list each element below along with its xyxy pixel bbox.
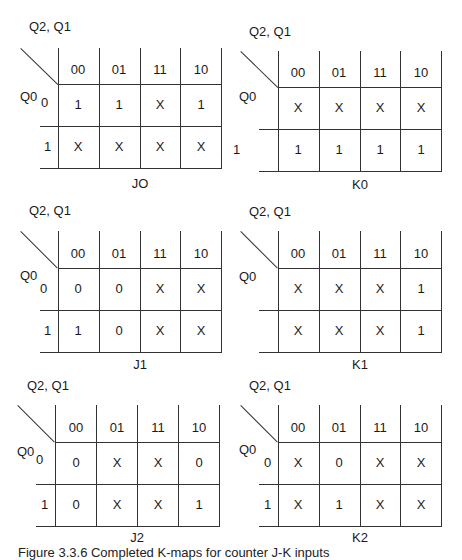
grid-line-vertical [441,231,442,352]
kmap-cell: X [279,281,317,297]
grid-line-vertical [180,48,181,168]
column-header: 11 [361,246,399,262]
row-variable-label: Q0 [239,89,256,104]
kmap-cell: 1 [182,97,220,113]
corner-diagonal [20,231,58,269]
kmap-cell: 1 [59,323,97,339]
kmap-k1: Q2, Q100011110Q0XXX1XXX1K1 [231,180,462,360]
grid-line-horizontal [58,268,222,269]
column-header: 00 [279,420,317,436]
column-header: 00 [279,246,317,262]
grid-line-horizontal [40,168,222,169]
column-header: 10 [402,420,440,436]
kmap-cell: X [279,323,317,339]
kmap-cell: X [361,100,399,116]
row-header: 1 [44,139,51,154]
kmap-cell: 1 [402,323,440,339]
kmap-cell: X [361,281,399,297]
kmap-cell: 0 [57,497,95,513]
grid-line-horizontal [40,310,222,311]
grid-line-vertical [221,231,222,352]
row-header: 1 [41,497,48,512]
column-header: 00 [59,62,97,78]
kmap-cell: 1 [100,97,138,113]
column-variables-label: Q2, Q1 [29,19,71,34]
kmap-j1: Q2, Q100011110Q00100XX10XXJ1 [0,180,231,360]
column-variables-label: Q2, Q1 [29,203,71,218]
kmap-cell: X [320,323,358,339]
kmap-cell: X [182,323,220,339]
kmap-cell: 0 [320,455,358,471]
column-header: 01 [100,246,138,262]
kmap-title: K2 [330,530,390,545]
grid-line-horizontal [58,84,222,85]
kmap-cell: X [361,497,399,513]
grid-line-vertical [400,405,401,526]
grid-line-vertical [55,405,56,526]
kmap-cell: X [141,323,179,339]
kmap-cell: 0 [180,455,218,471]
grid-line-horizontal [36,526,220,527]
kmap-cell: X [59,139,97,155]
kmap-cell: X [141,97,179,113]
column-header: 01 [100,62,138,78]
row-variable-label: Q0 [20,89,37,104]
column-header: 11 [361,420,399,436]
column-header: 10 [402,65,440,81]
grid-line-horizontal [259,171,442,172]
figure-caption: Figure 3.3.6 Completed K-maps for counte… [18,545,329,560]
grid-line-horizontal [55,442,220,443]
row-variable-label: Q0 [239,442,256,457]
column-header: 10 [180,420,218,436]
row-header: 0 [40,281,47,296]
grid-line-horizontal [259,526,442,527]
grid-line-horizontal [278,268,442,269]
kmap-cell: X [100,139,138,155]
kmap-title: J2 [107,530,167,545]
grid-line-horizontal [278,87,442,88]
kmap-cell: 0 [100,281,138,297]
column-header: 11 [139,420,177,436]
kmap-cell: 1 [279,142,317,158]
column-header: 11 [141,246,179,262]
grid-line-horizontal [278,442,442,443]
corner-diagonal [240,51,278,88]
kmap-cell: 0 [100,323,138,339]
corner-diagonal [240,405,278,443]
kmap-cell: 1 [320,497,358,513]
kmap-k2: Q2, Q100011110Q001X0XXX1XXK2 [231,360,462,540]
row-header: 1 [264,497,271,512]
row-header: 0 [264,455,271,470]
kmap-cell: X [139,455,177,471]
column-variables-label: Q2, Q1 [27,378,69,393]
column-header: 00 [279,65,317,81]
kmap-cell: 1 [320,142,358,158]
column-header: 10 [402,246,440,262]
grid-line-horizontal [36,484,220,485]
grid-line-vertical [180,231,181,352]
column-header: 00 [59,246,97,262]
column-header: 01 [320,420,358,436]
kmap-k0: Q2, Q100011110Q01XXXX1111K0 [231,0,462,180]
grid-line-vertical [221,48,222,168]
kmap-cell: X [402,100,440,116]
kmap-cell: 1 [180,497,218,513]
kmap-cell: 1 [402,142,440,158]
kmap-cell: X [98,497,136,513]
row-header: 0 [41,95,48,110]
grid-line-vertical [400,51,401,171]
kmap-cell: X [361,323,399,339]
kmap-cell: 1 [361,142,399,158]
grid-line-vertical [441,405,442,526]
kmap-cell: X [182,139,220,155]
grid-line-vertical [137,405,138,526]
grid-line-horizontal [259,352,442,353]
grid-line-horizontal [259,310,442,311]
kmap-cell: X [402,497,440,513]
row-header: 1 [44,323,51,338]
row-header: 0 [36,452,43,467]
kmap-cell: X [141,281,179,297]
column-header: 10 [182,246,220,262]
column-variables-label: Q2, Q1 [249,24,291,39]
grid-line-vertical [96,405,97,526]
